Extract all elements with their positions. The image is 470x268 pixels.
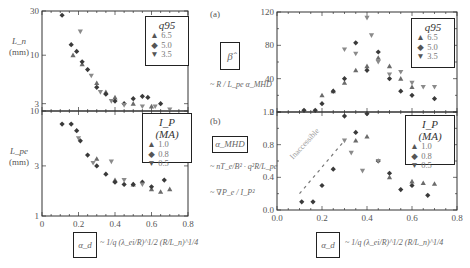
svg-text:0.8: 0.8 — [263, 140, 275, 150]
chart-canvas: 3103000.20.40.60.81310040801200.00.20.40… — [0, 0, 470, 268]
alpha-mhd-formula-2: ~ ∇P_e / I_P² — [210, 188, 255, 197]
alpha-d-box-right: α_d — [316, 232, 340, 258]
svg-text:0.2: 0.2 — [316, 213, 327, 223]
svg-text:0.8: 0.8 — [451, 213, 463, 223]
panel-a-tag: (a) — [210, 9, 220, 19]
svg-text:0.4: 0.4 — [109, 219, 121, 229]
svg-text:0.2: 0.2 — [73, 219, 84, 229]
svg-text:10: 10 — [30, 106, 40, 116]
alpha-mhd-box: α_MHD — [212, 136, 248, 153]
panel-b-tag: (b) — [210, 116, 221, 126]
svg-text:0.4: 0.4 — [361, 213, 373, 223]
svg-text:0.6: 0.6 — [406, 213, 418, 223]
svg-text:30: 30 — [30, 6, 40, 16]
svg-text:0.0: 0.0 — [263, 205, 275, 215]
svg-text:1: 1 — [35, 211, 40, 221]
ln-axis-label: L_n(mm) — [2, 36, 36, 58]
svg-text:120: 120 — [261, 7, 275, 17]
svg-text:0: 0 — [40, 219, 45, 229]
legend-ip-left: I_P (MA) ▲ 1.0 ◆ 0.8 ▼ 0.5 — [142, 113, 192, 163]
legend-ip-right: I_P (MA) ▲ 1.0 ◆ 0.8 ▼ 0.5 — [405, 115, 455, 165]
alpha-mhd-formula-1: ~ nT_e/B² · q²R/L_pe — [210, 162, 277, 171]
svg-text:0.8: 0.8 — [182, 219, 194, 229]
beta-hat-box: β̂ — [220, 42, 240, 70]
legend-q95-right: q95 ▲ 6.5 ◆ 5.0 ▼ 3.5 — [411, 18, 455, 68]
beta-hat-formula: ~ R / L_pe α_MHD — [210, 80, 272, 89]
alpha-d-box-left: α_d — [73, 232, 97, 258]
svg-text:0.6: 0.6 — [146, 219, 158, 229]
legend-q95-left: q95 ▲ 6.5 ◆ 5.0 ▼ 3.5 — [145, 16, 189, 66]
alpha-d-formula-left: ~ 1/q (λ_ei/R)^1/2 (R/L_n)^1/4 — [100, 238, 198, 247]
svg-text:0.4: 0.4 — [263, 172, 275, 182]
svg-text:1.2: 1.2 — [263, 107, 274, 117]
alpha-d-formula-right: ~ 1/q (λ_ei/R)^1/2 (R/L_n)^1/4 — [345, 238, 443, 247]
svg-text:80: 80 — [265, 40, 275, 50]
lpe-axis-label: L_pe(mm) — [2, 146, 36, 168]
